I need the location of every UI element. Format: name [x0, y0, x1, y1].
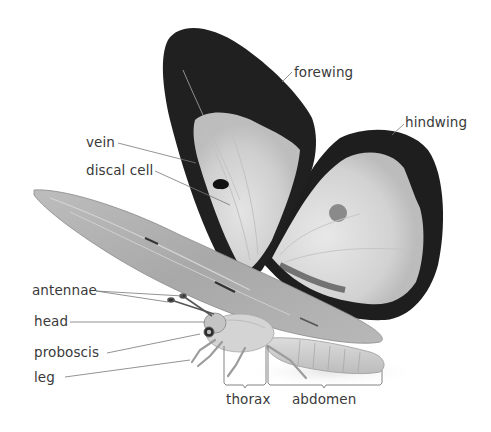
forewing-leader: [282, 72, 292, 82]
label-antennae: antennae: [32, 284, 97, 298]
label-abdomen: abdomen: [292, 393, 356, 407]
label-hindwing: hindwing: [405, 116, 467, 130]
label-discal-cell: discal cell: [86, 164, 153, 178]
label-leg: leg: [34, 371, 55, 385]
butterfly-illustration: [0, 0, 491, 432]
antennae-leader-1: [96, 291, 183, 296]
butterfly-diagram: forewing hindwing vein discal cell anten…: [0, 0, 491, 432]
label-head: head: [34, 315, 68, 329]
label-proboscis: proboscis: [34, 346, 99, 360]
label-thorax: thorax: [226, 393, 271, 407]
label-vein: vein: [86, 136, 115, 150]
antennae-leader-2: [96, 291, 168, 302]
label-forewing: forewing: [294, 66, 353, 80]
leg-leader: [65, 360, 190, 377]
proboscis-leader: [107, 334, 200, 353]
